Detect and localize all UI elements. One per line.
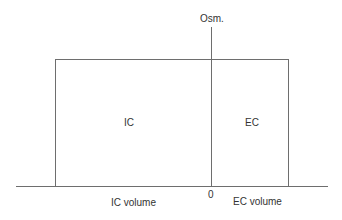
ec-volume-label: EC volume bbox=[233, 196, 282, 208]
ic-compartment-label: IC bbox=[124, 117, 134, 129]
y-axis-label: Osm. bbox=[200, 13, 224, 25]
ic-volume-label: IC volume bbox=[111, 197, 156, 209]
origin-label: 0 bbox=[208, 189, 214, 201]
box-left-edge bbox=[55, 59, 56, 187]
y-axis bbox=[211, 27, 212, 187]
x-axis bbox=[16, 186, 328, 187]
box-top-edge bbox=[55, 59, 289, 60]
ec-compartment-label: EC bbox=[245, 117, 259, 129]
box-right-edge bbox=[288, 59, 289, 187]
